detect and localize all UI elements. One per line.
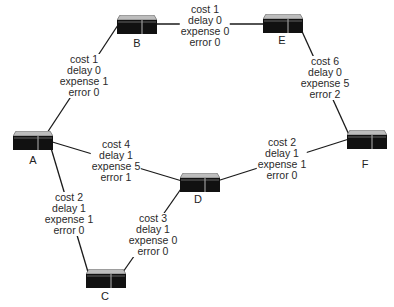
error-text: error 0 [45, 225, 93, 236]
router-e [263, 14, 303, 34]
router-label-d: D [188, 194, 208, 205]
error-text: error 1 [92, 172, 140, 183]
edge-label-a-d: cost 4 delay 1 expense 5 error 1 [91, 139, 141, 183]
error-text: error 2 [301, 89, 349, 100]
edge-label-b-e: cost 1 delay 0 expense 0 error 0 [180, 4, 230, 48]
edge-label-c-d: cost 3 delay 1 expense 0 error 0 [128, 213, 178, 257]
edge-label-a-b: cost 1 delay 0 expense 1 error 0 [59, 54, 109, 98]
router-icon [86, 269, 126, 289]
error-text: error 0 [258, 170, 306, 181]
router-f [347, 130, 387, 150]
error-text: error 0 [181, 37, 229, 48]
router-icon [13, 131, 53, 151]
router-d [180, 173, 220, 193]
router-icon [263, 14, 303, 34]
router-label-f: F [355, 159, 375, 170]
edge-label-d-f: cost 2 delay 1 expense 1 error 0 [257, 137, 307, 181]
error-text: error 0 [129, 246, 177, 257]
router-b [117, 15, 157, 35]
edge-label-e-f: cost 6 delay 0 expense 5 error 2 [300, 56, 350, 100]
router-label-c: C [95, 291, 115, 302]
router-label-b: B [127, 38, 147, 49]
router-icon [180, 173, 220, 193]
router-icon [117, 15, 157, 35]
router-label-a: A [23, 155, 43, 166]
network-diagram: cost 1 delay 0 expense 1 error 0 cost 1 … [0, 0, 394, 307]
router-c [86, 269, 126, 289]
router-label-e: E [272, 35, 292, 46]
error-text: error 0 [60, 87, 108, 98]
edge-label-a-c: cost 2 delay 1 expense 1 error 0 [44, 192, 94, 236]
router-a [13, 131, 53, 151]
router-icon [347, 130, 387, 150]
